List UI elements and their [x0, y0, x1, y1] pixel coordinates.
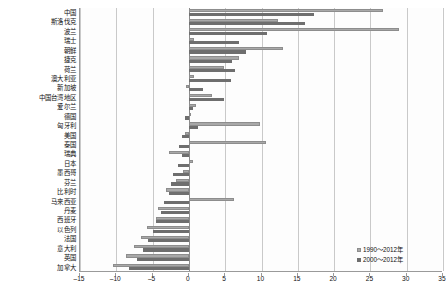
bar-series1 — [189, 160, 193, 163]
y-axis-label: 马来西亚 — [0, 197, 76, 206]
y-axis-label: 荷兰 — [0, 65, 76, 74]
bar-row — [80, 178, 442, 187]
bar-series2 — [169, 192, 189, 195]
y-axis-label: 捷克 — [0, 55, 76, 64]
y-axis-label: 泰国 — [0, 140, 76, 149]
y-axis-label: 美国 — [0, 131, 76, 140]
bar-row — [80, 140, 442, 149]
bar-row — [80, 83, 442, 92]
bar-series2 — [137, 258, 189, 261]
y-axis-label: 西班牙 — [0, 215, 76, 224]
bar-row — [80, 168, 442, 177]
bar-series2 — [148, 239, 189, 242]
bar-series2 — [179, 145, 189, 148]
y-axis-label: 丹麦 — [0, 206, 76, 215]
x-axis-labels: –15–10–505101520253035 — [79, 273, 442, 287]
bar-series1 — [189, 113, 191, 116]
y-axis-label: 以色列 — [0, 225, 76, 234]
bar-series2 — [189, 50, 246, 53]
x-axis-tick-label: 20 — [329, 275, 336, 282]
y-axis-label: 意大利 — [0, 244, 76, 253]
legend-label-0: 1990～2012年 — [363, 245, 403, 255]
bar-row — [80, 197, 442, 206]
bar-row — [80, 27, 442, 36]
x-axis-tick-label: 15 — [293, 275, 300, 282]
bar-row — [80, 206, 442, 215]
bar-rows — [80, 8, 442, 271]
legend-swatch-dark-square-icon — [357, 258, 361, 262]
bar-row — [80, 131, 442, 140]
bar-series2 — [143, 248, 189, 251]
bar-row — [80, 187, 442, 196]
bar-row — [80, 159, 442, 168]
chart-legend: 1990～2012年 2000～2012年 — [357, 245, 403, 265]
x-axis-tick-label: 5 — [222, 275, 226, 282]
y-axis-label: 瑞士 — [0, 36, 76, 45]
bar-series2 — [189, 79, 231, 82]
bar-series2 — [189, 60, 233, 63]
legend-label-1: 2000～2012年 — [363, 255, 403, 265]
y-axis-label: 芬兰 — [0, 178, 76, 187]
y-axis-label: 匈牙利 — [0, 121, 76, 130]
bar-row — [80, 93, 442, 102]
y-axis-label: 中国 — [0, 8, 76, 17]
bar-series2 — [189, 13, 314, 16]
bar-series1 — [189, 141, 266, 144]
bar-series2 — [189, 69, 235, 72]
bar-series2 — [161, 211, 189, 214]
bar-series2 — [189, 32, 267, 35]
bar-series2 — [171, 182, 188, 185]
bar-series2 — [182, 135, 189, 138]
x-axis-tick-label: 35 — [438, 275, 445, 282]
bar-series2 — [164, 201, 189, 204]
y-axis-label: 比利时 — [0, 187, 76, 196]
bar-row — [80, 149, 442, 158]
y-axis-labels: 中国斯洛伐克波兰瑞士朝鲜捷克荷兰澳大利亚新加坡中国台湾地区爱尔兰德国匈牙利美国泰… — [0, 8, 76, 272]
bar-row — [80, 234, 442, 243]
bar-series2 — [189, 98, 225, 101]
bar-series2 — [178, 164, 189, 167]
y-axis-label: 日本 — [0, 159, 76, 168]
x-axis-tick-label: –15 — [73, 275, 84, 282]
legend-swatch-light-square-icon — [357, 248, 361, 252]
bar-row — [80, 225, 442, 234]
bar-series1 — [189, 122, 260, 125]
bar-series2 — [153, 230, 189, 233]
bar-series2 — [189, 126, 198, 129]
legend-item-1: 2000～2012年 — [357, 255, 403, 265]
y-axis-label: 朝鲜 — [0, 46, 76, 55]
bar-row — [80, 121, 442, 130]
bar-row — [80, 55, 442, 64]
y-axis-label: 法国 — [0, 234, 76, 243]
y-axis-label: 英国 — [0, 253, 76, 262]
legend-item-0: 1990～2012年 — [357, 245, 403, 255]
x-axis-tick-label: 30 — [402, 275, 409, 282]
y-axis-label: 澳大利亚 — [0, 74, 76, 83]
x-axis-tick-label: –5 — [148, 275, 155, 282]
bar-row — [80, 74, 442, 83]
x-axis-tick-label: 25 — [366, 275, 373, 282]
bar-row — [80, 112, 442, 121]
bar-row — [80, 8, 442, 17]
bar-row — [80, 46, 442, 55]
y-axis-label: 中国台湾地区 — [0, 93, 76, 102]
bar-series2 — [189, 107, 193, 110]
plot-area — [79, 8, 442, 272]
x-axis-tick-label: 10 — [257, 275, 264, 282]
y-axis-label: 瑞典 — [0, 149, 76, 158]
bar-series2 — [185, 116, 189, 119]
y-axis-label: 波兰 — [0, 27, 76, 36]
y-axis-label: 斯洛伐克 — [0, 17, 76, 26]
y-axis-label: 德国 — [0, 112, 76, 121]
bar-series2 — [182, 154, 189, 157]
bar-series1 — [189, 198, 234, 201]
bar-row — [80, 17, 442, 26]
y-axis-label: 墨西哥 — [0, 168, 76, 177]
x-axis-tick-label: 0 — [186, 275, 190, 282]
bar-row — [80, 215, 442, 224]
bar-series2 — [189, 41, 239, 44]
bar-series2 — [189, 22, 305, 25]
bar-series2 — [129, 267, 189, 270]
bar-row — [80, 36, 442, 45]
